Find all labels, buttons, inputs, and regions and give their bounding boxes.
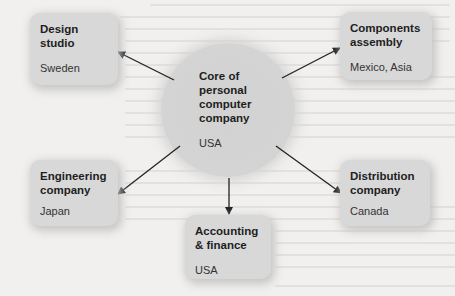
node-title: Design studio	[40, 22, 108, 50]
node-location: Mexico, Asia	[350, 61, 422, 73]
arrow-to-design	[118, 52, 174, 80]
arrow-to-engineering	[118, 146, 180, 194]
node-components-assembly: Components assembly Mexico, Asia	[340, 12, 432, 80]
node-title: Accounting & finance	[195, 224, 261, 252]
node-distribution-company: Distribution company Canada	[340, 160, 430, 226]
node-location: USA	[195, 264, 261, 276]
node-title: Engineering company	[40, 169, 108, 197]
node-accounting-finance: Accounting & finance USA	[185, 215, 271, 279]
arrow-to-components	[282, 48, 340, 78]
node-location: Japan	[40, 205, 108, 217]
node-engineering-company: Engineering company Japan	[30, 160, 118, 226]
node-design-studio: Design studio Sweden	[30, 13, 118, 85]
node-location: Canada	[350, 205, 420, 217]
node-title: Components assembly	[350, 21, 422, 49]
arrow-to-distribution	[276, 146, 341, 193]
node-location: Sweden	[40, 62, 108, 74]
node-title: Distribution company	[350, 169, 420, 197]
